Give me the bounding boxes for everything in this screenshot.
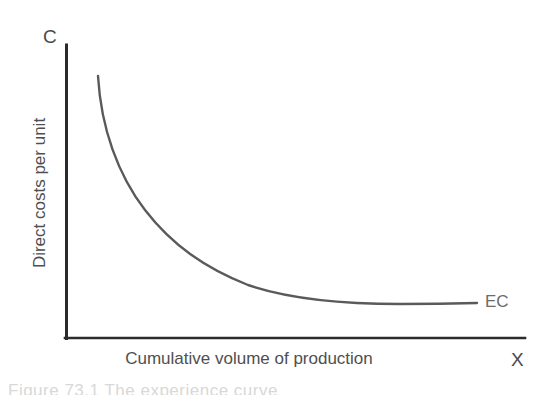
experience-curve-label: EC <box>485 293 509 310</box>
y-axis-title-container: Direct costs per unit <box>28 95 50 291</box>
experience-curve-path <box>98 76 477 304</box>
chart-canvas <box>0 0 550 395</box>
y-axis-end-label: C <box>43 27 57 46</box>
y-axis-title: Direct costs per unit <box>31 118 48 268</box>
experience-curve-figure: C X EC Direct costs per unit Cumulative … <box>0 0 550 395</box>
x-axis-title: Cumulative volume of production <box>0 350 550 367</box>
figure-caption-clipped: Figure 73.1 The experience curve <box>8 381 548 395</box>
